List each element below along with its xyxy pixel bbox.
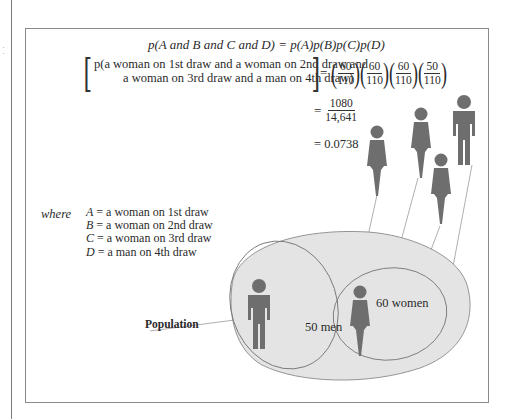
equals-sign: = — [320, 65, 327, 81]
right-bracket: ] — [312, 52, 321, 92]
general-rule-lhs: p(A and B and C and D) — [148, 37, 275, 52]
general-rule-equation: p(A and B and C and D) = p(A)p(B)p(C)p(D… — [148, 38, 385, 52]
result-value: = 0.0738 — [314, 137, 359, 151]
fraction-product: = ( 60110 )( 60110 )( 60110 )( 50110 ) — [320, 58, 447, 88]
left-bracket: [ — [84, 52, 93, 92]
product-fraction: = 108014,641 — [314, 97, 357, 124]
population-label: Population — [145, 317, 199, 331]
women-count-label: 60 women — [376, 296, 428, 310]
woman-figure-draw3-icon — [431, 154, 451, 225]
men-count-label: 50 men — [305, 320, 342, 334]
fraction-4: 50110 — [424, 60, 441, 87]
where-label: where — [41, 207, 71, 221]
fraction-2: 60110 — [366, 60, 383, 87]
fraction-1: 60110 — [337, 60, 354, 87]
equals-sign: = — [314, 103, 321, 119]
woman-figure-draw2-icon — [411, 108, 431, 179]
woman-figure-draw1-icon — [367, 126, 387, 197]
man-figure-draw4-icon — [453, 95, 475, 165]
definition-d: D = a man on 4th draw — [86, 246, 213, 259]
definitions-list: A = a woman on 1st draw B = a woman on 2… — [86, 206, 213, 259]
fraction-3: 60110 — [395, 60, 412, 87]
general-rule-rhs: = p(A)p(B)p(C)p(D) — [278, 37, 385, 52]
